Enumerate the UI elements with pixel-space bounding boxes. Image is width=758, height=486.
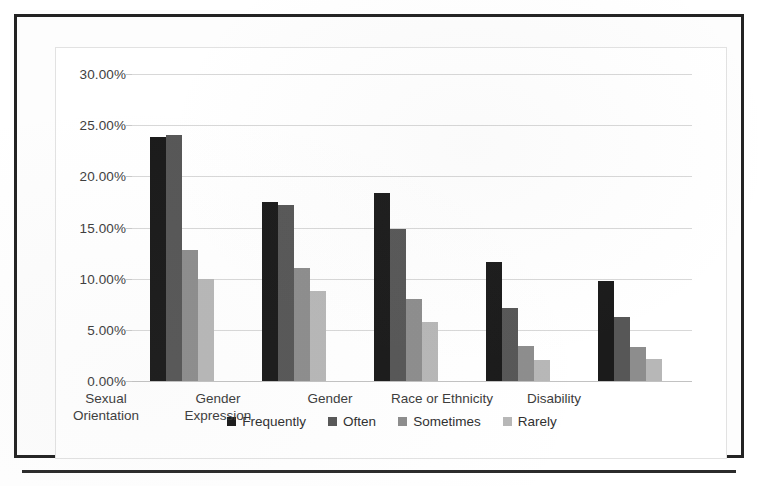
x-axis-category-label-line: Disability (474, 390, 634, 407)
bar[interactable] (502, 308, 518, 381)
bar[interactable] (278, 205, 294, 381)
bar[interactable] (294, 268, 310, 381)
legend-swatch-icon (503, 417, 512, 426)
x-axis-category-label-line: Expression (138, 407, 298, 424)
bar[interactable] (518, 346, 534, 381)
bar[interactable] (646, 359, 662, 382)
bar[interactable] (182, 250, 198, 381)
y-axis-tick-label: 10.00% (64, 271, 126, 286)
chart-plot-area: 30.00%25.00%20.00%15.00%10.00%5.00%0.00%… (56, 48, 728, 460)
bar[interactable] (150, 137, 166, 381)
bar[interactable] (310, 291, 326, 381)
y-axis-tick-label: 20.00% (64, 169, 126, 184)
y-axis-tick-label: 0.00% (64, 374, 126, 389)
bar[interactable] (534, 360, 550, 381)
bar[interactable] (614, 317, 630, 381)
legend-label: Rarely (518, 414, 557, 429)
y-axis-tick-label: 5.00% (64, 322, 126, 337)
bar[interactable] (486, 262, 502, 381)
legend-item[interactable]: Sometimes (398, 414, 481, 429)
legend-swatch-icon (328, 417, 337, 426)
y-axis-tick-label: 30.00% (64, 67, 126, 82)
bar[interactable] (630, 347, 646, 381)
y-axis-tick-label: 15.00% (64, 220, 126, 235)
legend-label: Sometimes (413, 414, 481, 429)
bar[interactable] (374, 193, 390, 381)
bar[interactable] (390, 229, 406, 381)
legend-swatch-icon (398, 417, 407, 426)
bar[interactable] (198, 279, 214, 381)
x-axis-category-label: Disability (474, 390, 634, 407)
legend-item[interactable]: Often (328, 414, 376, 429)
scanned-page-frame: 30.00%25.00%20.00%15.00%10.00%5.00%0.00%… (14, 14, 744, 458)
bar[interactable] (166, 135, 182, 381)
bar[interactable] (598, 281, 614, 381)
chart-container: 30.00%25.00%20.00%15.00%10.00%5.00%0.00%… (55, 47, 727, 459)
bar[interactable] (422, 322, 438, 381)
legend-item[interactable]: Rarely (503, 414, 557, 429)
legend-label: Often (343, 414, 376, 429)
bar[interactable] (262, 202, 278, 381)
bar[interactable] (406, 299, 422, 381)
page-bottom-rule (22, 470, 736, 473)
y-axis-tick-label: 25.00% (64, 118, 126, 133)
